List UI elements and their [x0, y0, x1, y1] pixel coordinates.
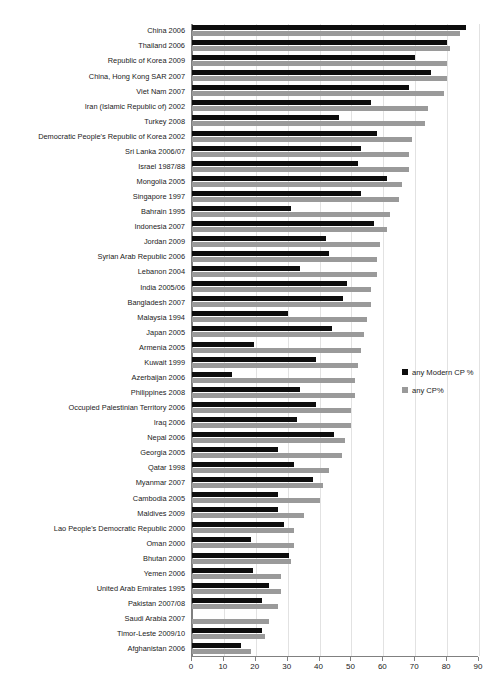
bar-row [192, 205, 478, 220]
category-label: Turkey 2008 [144, 118, 185, 126]
bar-row [192, 175, 478, 190]
bar-any-cp [192, 363, 358, 368]
bar-any-cp [192, 212, 390, 217]
bar-any-cp [192, 589, 281, 594]
bar-row [192, 280, 478, 295]
bar-modern-cp [192, 342, 254, 347]
gray-square-icon [402, 387, 408, 393]
bar-any-cp [192, 468, 329, 473]
bar-modern-cp [192, 326, 332, 331]
bar-modern-cp [192, 85, 409, 90]
bar-row [192, 160, 478, 175]
bar-modern-cp [192, 206, 291, 211]
bar-any-cp [192, 106, 428, 111]
bar-row [192, 250, 478, 265]
category-label: Iraq 2006 [154, 419, 185, 427]
x-tick-0 [191, 657, 192, 661]
bar-row [192, 491, 478, 506]
x-tick-label-20: 20 [240, 662, 270, 671]
legend-item[interactable]: any Modern CP % [402, 363, 498, 381]
bar-modern-cp [192, 251, 329, 256]
category-label: Jordan 2009 [144, 238, 185, 246]
bar-modern-cp [192, 492, 278, 497]
category-label: Cambodia 2005 [133, 495, 185, 503]
bar-modern-cp [192, 281, 347, 286]
bar-modern-cp [192, 191, 361, 196]
x-tick-10 [223, 657, 224, 661]
category-label: China, Hong Kong SAR 2007 [89, 73, 185, 81]
bar-modern-cp [192, 537, 251, 542]
category-label: Bangladesh 2007 [127, 299, 185, 307]
bar-any-cp [192, 393, 355, 398]
bar-row [192, 295, 478, 310]
bar-any-cp [192, 649, 251, 654]
bar-any-cp [192, 152, 409, 157]
bar-any-cp [192, 513, 304, 518]
category-label: Indonesia 2007 [134, 223, 185, 231]
bar-row [192, 582, 478, 597]
category-label: Timor-Leste 2009/10 [117, 630, 185, 638]
bar-any-cp [192, 634, 265, 639]
bar-row [192, 99, 478, 114]
category-label: Yemen 2006 [144, 570, 185, 578]
category-label: Republic of Korea 2009 [108, 57, 185, 65]
bar-row [192, 235, 478, 250]
bar-row [192, 24, 478, 39]
bar-modern-cp [192, 25, 466, 30]
bar-row [192, 567, 478, 582]
bar-row [192, 265, 478, 280]
bar-row [192, 506, 478, 521]
bar-modern-cp [192, 628, 262, 633]
bar-row [192, 190, 478, 205]
category-label: Georgia 2005 [140, 449, 185, 457]
bar-row [192, 642, 478, 657]
legend-label: any Modern CP % [412, 368, 473, 377]
x-tick-50 [350, 657, 351, 661]
bar-any-cp [192, 242, 380, 247]
bar-modern-cp [192, 462, 294, 467]
category-label: Syrian Arab Republic 2006 [97, 253, 185, 261]
bar-any-cp [192, 423, 351, 428]
category-label: Oman 2000 [146, 540, 185, 548]
bar-row [192, 84, 478, 99]
bar-modern-cp [192, 100, 371, 105]
bar-any-cp [192, 543, 294, 548]
x-tick-20 [255, 657, 256, 661]
gridline-90 [479, 24, 480, 656]
x-tick-90 [478, 657, 479, 661]
bar-any-cp [192, 182, 402, 187]
category-label: Lebanon 2004 [138, 268, 185, 276]
bar-row [192, 69, 478, 84]
bar-modern-cp [192, 115, 339, 120]
x-tick-60 [382, 657, 383, 661]
bar-modern-cp [192, 221, 374, 226]
bar-row [192, 612, 478, 627]
category-label: Saudi Arabia 2007 [125, 615, 185, 623]
bar-modern-cp [192, 522, 284, 527]
category-label: Israel 1987/88 [138, 163, 185, 171]
bar-any-cp [192, 332, 364, 337]
bar-modern-cp [192, 176, 387, 181]
bar-modern-cp [192, 553, 289, 558]
black-square-icon [402, 369, 408, 375]
bar-row [192, 114, 478, 129]
category-label: Mongolia 2005 [137, 178, 186, 186]
bar-any-cp [192, 76, 447, 81]
bar-any-cp [192, 46, 450, 51]
bar-row [192, 476, 478, 491]
legend-item[interactable]: any CP% [402, 381, 498, 399]
bar-row [192, 627, 478, 642]
bar-modern-cp [192, 568, 253, 573]
bar-any-cp [192, 348, 361, 353]
bar-modern-cp [192, 643, 241, 648]
bar-any-cp [192, 528, 294, 533]
category-label: Sri Lanka 2006/07 [125, 148, 185, 156]
bar-row [192, 536, 478, 551]
contraceptive-prevalence-bar-chart: China 2006Thailand 2006Republic of Korea… [0, 0, 498, 691]
x-tick-80 [446, 657, 447, 661]
bar-modern-cp [192, 387, 300, 392]
bar-any-cp [192, 257, 377, 262]
category-label: Qatar 1998 [148, 464, 185, 472]
category-label: Japan 2005 [146, 329, 185, 337]
category-label: Malaysia 1994 [137, 314, 185, 322]
